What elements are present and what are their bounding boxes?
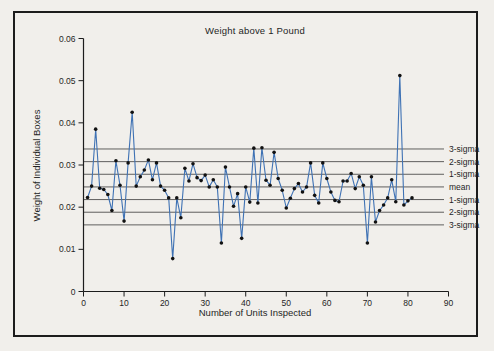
data-point [276, 177, 280, 181]
y-tick-label: 0.04 [59, 118, 76, 128]
data-point [345, 179, 349, 183]
data-point [313, 194, 317, 198]
data-point [147, 158, 151, 162]
data-point [333, 199, 337, 203]
data-point [321, 161, 325, 165]
x-tick-label: 80 [403, 298, 413, 308]
data-point [207, 185, 211, 189]
data-point [240, 237, 244, 241]
control-line-label-0: 3-sigma [449, 144, 480, 154]
y-tick-label: 0.01 [59, 244, 76, 254]
data-point [248, 200, 252, 204]
data-point [94, 127, 98, 131]
data-point [138, 175, 142, 179]
data-point [187, 179, 191, 183]
control-line-label-4: 1-sigma [449, 195, 480, 205]
x-tick-label: 10 [119, 298, 129, 308]
data-point [394, 200, 398, 204]
data-point [143, 168, 147, 172]
data-point [353, 187, 357, 191]
data-point [366, 241, 370, 245]
control-line-label-1: 2-sigma [449, 157, 480, 167]
data-point [106, 193, 110, 197]
y-tick-label: 0.02 [59, 202, 76, 212]
data-point [293, 187, 297, 191]
data-point [252, 146, 256, 150]
data-point [268, 183, 272, 187]
data-point [134, 184, 138, 188]
data-point [317, 201, 321, 205]
y-tick-label: 0.06 [59, 34, 76, 44]
data-point [167, 196, 171, 200]
y-tick-label: 0 [71, 287, 76, 297]
data-point [236, 192, 240, 196]
data-point [110, 209, 114, 213]
y-tick-label: 0.05 [59, 76, 76, 86]
data-point [349, 172, 353, 176]
data-point [398, 74, 402, 78]
data-point [90, 184, 94, 188]
data-point [256, 201, 260, 205]
data-point [220, 241, 224, 245]
control-chart: 3-sigma2-sigma1-sigmamean1-sigma2-sigma3… [0, 0, 494, 351]
data-point [284, 206, 288, 210]
x-tick-label: 30 [200, 298, 210, 308]
data-point [370, 175, 374, 179]
data-point [151, 178, 155, 182]
data-point [378, 209, 382, 213]
data-point [203, 173, 207, 177]
data-point [374, 220, 378, 224]
data-point [406, 199, 410, 203]
data-point [244, 185, 248, 189]
y-tick-label: 0.03 [59, 160, 76, 170]
data-point [357, 175, 361, 179]
data-point [362, 183, 366, 187]
data-point [122, 219, 126, 223]
data-point [228, 185, 232, 189]
data-point [102, 188, 106, 192]
data-point [216, 185, 220, 189]
x-tick-label: 60 [322, 298, 332, 308]
data-point [86, 196, 90, 200]
data-point [301, 190, 305, 194]
data-point [386, 196, 390, 200]
x-tick-label: 70 [363, 298, 373, 308]
data-point [130, 110, 134, 114]
data-point [264, 178, 268, 182]
x-tick-label: 0 [81, 298, 86, 308]
data-point [183, 167, 187, 171]
data-point [98, 186, 102, 190]
control-line-label-5: 2-sigma [449, 207, 480, 217]
data-point [272, 151, 276, 155]
data-point [297, 182, 301, 186]
data-point [159, 184, 163, 188]
data-point [410, 196, 414, 200]
data-point [191, 162, 195, 166]
data-point [114, 159, 118, 163]
x-tick-label: 90 [444, 298, 454, 308]
data-point [341, 179, 345, 183]
data-point [179, 216, 183, 220]
data-point [280, 189, 284, 193]
data-point [305, 185, 309, 189]
data-point [224, 165, 228, 169]
data-point [289, 197, 293, 201]
data-point [309, 161, 313, 165]
data-point [155, 161, 159, 165]
data-point [402, 203, 406, 207]
data-point [126, 161, 130, 165]
control-line-label-3: mean [449, 182, 471, 192]
data-line [88, 76, 412, 259]
data-point [232, 205, 236, 209]
data-point [211, 178, 215, 182]
data-point [199, 179, 203, 183]
x-tick-label: 40 [241, 298, 251, 308]
control-line-label-2: 1-sigma [449, 169, 480, 179]
data-point [260, 146, 264, 150]
x-tick-label: 50 [282, 298, 292, 308]
data-point [175, 196, 179, 200]
data-point [329, 190, 333, 194]
data-point [163, 189, 167, 193]
data-point [195, 176, 199, 180]
data-point [382, 203, 386, 207]
